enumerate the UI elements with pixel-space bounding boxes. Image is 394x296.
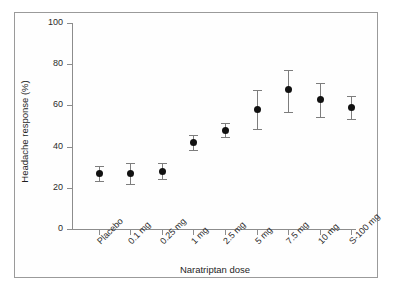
data-point-marker bbox=[159, 168, 166, 175]
error-bar-cap bbox=[189, 150, 198, 151]
y-axis-title: Headache response (%) bbox=[19, 52, 30, 212]
error-bar-cap bbox=[95, 181, 104, 182]
y-axis-tick-label-wrap: 0 bbox=[30, 224, 63, 233]
y-axis-tick-label: 0 bbox=[31, 224, 63, 233]
x-axis-tick-label: 10 mg bbox=[316, 221, 341, 246]
data-point-marker bbox=[254, 106, 261, 113]
y-axis-tick-label-wrap: 40 bbox=[30, 142, 63, 151]
data-point-marker bbox=[348, 104, 355, 111]
y-axis-tick-label: 80 bbox=[31, 59, 63, 68]
error-bar-cap bbox=[126, 184, 135, 185]
y-axis-tick-label: 60 bbox=[31, 100, 63, 109]
error-bar-cap bbox=[316, 117, 325, 118]
error-bar-cap bbox=[347, 96, 356, 97]
y-axis-tick-label: 20 bbox=[31, 183, 63, 192]
y-axis-tick bbox=[67, 64, 72, 65]
y-axis-line bbox=[72, 23, 73, 230]
error-bar-cap bbox=[221, 123, 230, 124]
error-bar-cap bbox=[347, 119, 356, 120]
error-bar-cap bbox=[158, 179, 167, 180]
error-bar-cap bbox=[284, 112, 293, 113]
x-axis-title: Naratriptan dose bbox=[150, 264, 280, 275]
y-axis-tick-label-wrap: 20 bbox=[30, 183, 63, 192]
plot-area: 020406080100 Placebo0.1 mg0.25 mg1 mg2.5… bbox=[0, 0, 394, 296]
y-axis-tick bbox=[67, 147, 72, 148]
error-bar-cap bbox=[253, 90, 262, 91]
error-bar-cap bbox=[253, 129, 262, 130]
y-axis-tick-label-wrap: 100 bbox=[30, 18, 63, 27]
data-point-marker bbox=[222, 127, 229, 134]
data-point-marker bbox=[127, 170, 134, 177]
y-axis-tick-label-wrap: 80 bbox=[30, 59, 63, 68]
y-axis-tick-label: 40 bbox=[31, 142, 63, 151]
error-bar-cap bbox=[158, 163, 167, 164]
error-bar-cap bbox=[284, 70, 293, 71]
error-bar-cap bbox=[221, 137, 230, 138]
y-axis-tick bbox=[67, 23, 72, 24]
y-axis-tick-label-wrap: 60 bbox=[30, 100, 63, 109]
y-axis-tick-label: 100 bbox=[31, 18, 63, 27]
data-point-marker bbox=[190, 139, 197, 146]
error-bar-cap bbox=[189, 135, 198, 136]
y-axis-tick bbox=[67, 229, 72, 230]
data-point-marker bbox=[285, 86, 292, 93]
error-bar-cap bbox=[126, 163, 135, 164]
data-point-marker bbox=[317, 96, 324, 103]
error-bar-cap bbox=[95, 166, 104, 167]
y-axis-tick bbox=[67, 105, 72, 106]
data-point-marker bbox=[96, 170, 103, 177]
figure-container: 020406080100 Placebo0.1 mg0.25 mg1 mg2.5… bbox=[0, 0, 394, 296]
y-axis-tick bbox=[67, 188, 72, 189]
error-bar-cap bbox=[316, 83, 325, 84]
x-axis-tick-label: 0.1 mg bbox=[126, 220, 153, 247]
